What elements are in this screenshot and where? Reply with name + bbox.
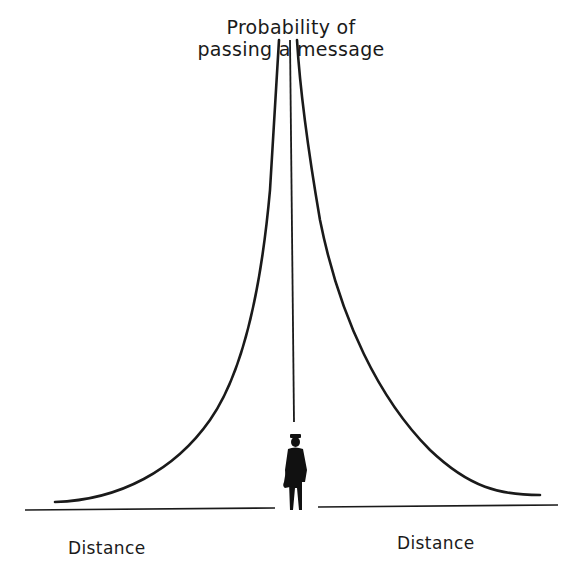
- center-axis-line: [290, 40, 294, 422]
- baseline-left: [25, 508, 275, 510]
- right-probability-curve: [297, 40, 540, 495]
- person-figure-icon: [283, 434, 307, 510]
- left-distance-label: Distance: [68, 538, 146, 558]
- right-distance-label: Distance: [397, 533, 475, 553]
- probability-distance-diagram: [0, 0, 582, 583]
- left-probability-curve: [55, 40, 279, 502]
- baseline-right: [318, 505, 558, 507]
